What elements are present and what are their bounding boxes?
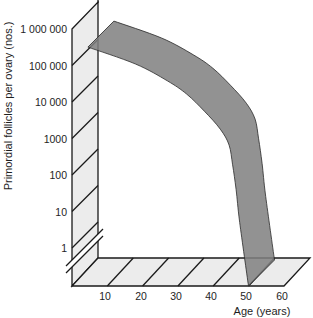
x-tick-label: 10 bbox=[99, 290, 111, 302]
y-tick-label: 1000 bbox=[44, 133, 68, 145]
y-tick-label: 100 000 bbox=[29, 60, 67, 72]
x-tick-label: 30 bbox=[170, 290, 182, 302]
x-tick-label: 20 bbox=[135, 290, 147, 302]
follicle-decline-chart: Primordial follicles per ovary (nos.) 1 … bbox=[0, 0, 313, 318]
x-axis-title: Age (years) bbox=[234, 305, 291, 317]
y-tick-label: 1 000 000 bbox=[20, 23, 67, 35]
y-tick-label: 1 bbox=[61, 242, 67, 254]
x-tick-label: 60 bbox=[276, 290, 288, 302]
x-tick-label: 40 bbox=[205, 290, 217, 302]
y-axis-title: Primordial follicles per ovary (nos.) bbox=[2, 22, 14, 191]
x-tick-label: 50 bbox=[240, 290, 252, 302]
x-axis-panel bbox=[72, 258, 310, 286]
y-tick-label: 10 000 bbox=[35, 96, 67, 108]
y-tick-label: 100 bbox=[49, 169, 67, 181]
y-tick-labels: 1 000 000 100 000 10 000 1000 100 10 1 bbox=[20, 23, 67, 254]
y-tick-label: 10 bbox=[55, 206, 67, 218]
x-tick-labels: 10 20 30 40 50 60 bbox=[99, 290, 288, 302]
follicle-count-band bbox=[88, 21, 275, 286]
